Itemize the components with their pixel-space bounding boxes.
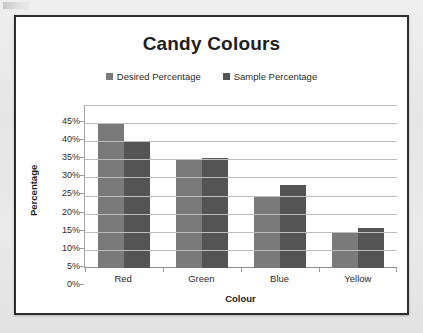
legend-label-sample: Sample Percentage — [234, 71, 317, 82]
gridline — [85, 232, 397, 233]
legend-item-desired[interactable]: Desired Percentage — [106, 71, 201, 82]
y-axis-tick-label: 10% — [46, 243, 80, 253]
bar-group — [241, 105, 319, 268]
gridline — [85, 214, 397, 215]
x-axis-tick-mark — [85, 268, 86, 272]
gridline — [85, 250, 397, 251]
x-axis-tick-label: Blue — [241, 273, 319, 284]
bar-group — [85, 105, 163, 268]
bar-group — [163, 105, 241, 268]
x-axis-tick-label: Red — [84, 273, 162, 284]
y-axis-tick-label: 35% — [46, 152, 80, 162]
gridline — [85, 177, 397, 178]
legend-swatch-icon-desired — [106, 73, 113, 80]
gridline — [85, 196, 397, 197]
x-axis-tick-label: Yellow — [319, 273, 397, 284]
x-axis-title: Colour — [84, 293, 397, 304]
bar-blue-series-2[interactable] — [280, 185, 306, 268]
gridline — [85, 123, 397, 124]
x-axis-tick-label: Green — [162, 273, 240, 284]
chart-title: Candy Colours — [16, 33, 407, 55]
plot-area — [84, 105, 397, 268]
y-axis-tick-label: 15% — [46, 225, 80, 235]
bar-yellow-series-2[interactable] — [358, 228, 384, 268]
bar-group — [319, 105, 397, 268]
y-axis-tick-labels: 45%40%35%30%25%20%15%10%5%0% — [42, 105, 80, 268]
x-axis-tick-mark — [241, 268, 242, 272]
legend-swatch-icon-sample — [223, 73, 230, 80]
y-axis-tick-label: 40% — [46, 134, 80, 144]
y-axis-tick-label: 5% — [46, 261, 80, 271]
plot-wrapper: Percentage 45%40%35%30%25%20%15%10%5%0% … — [16, 89, 407, 317]
y-axis-tick-label: 0% — [46, 279, 80, 289]
x-axis-tick-mark — [163, 268, 164, 272]
legend-label-desired: Desired Percentage — [117, 71, 201, 82]
y-axis-tick-label: 20% — [46, 207, 80, 217]
y-axis-tick-label: 25% — [46, 188, 80, 198]
y-axis-tick-mark — [80, 284, 84, 285]
x-axis-tick-mark — [396, 268, 397, 272]
scan-artifact — [3, 2, 29, 9]
bars-layer — [85, 105, 397, 268]
chart-container: Candy Colours Desired Percentage Sample … — [14, 15, 409, 315]
y-axis-title: Percentage — [26, 135, 40, 245]
gridline — [85, 105, 397, 106]
x-axis-tick-mark — [319, 268, 320, 272]
y-axis-tick-label: 30% — [46, 170, 80, 180]
gridline — [85, 141, 397, 142]
legend-item-sample[interactable]: Sample Percentage — [223, 71, 317, 82]
y-axis-tick-label: 45% — [46, 116, 80, 126]
x-axis-tick-labels: RedGreenBlueYellow — [84, 273, 397, 284]
gridline — [85, 159, 397, 160]
chart-legend: Desired Percentage Sample Percentage — [16, 71, 407, 82]
